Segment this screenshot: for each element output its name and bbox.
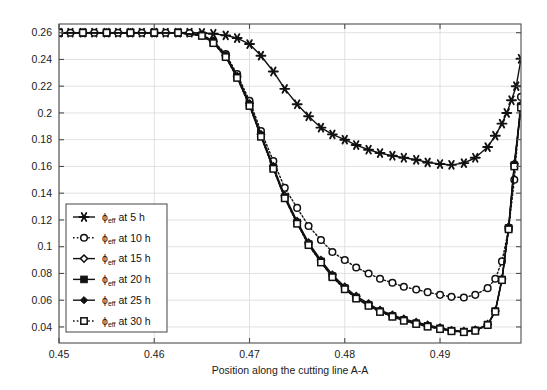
- marker-circle-open: [461, 294, 468, 301]
- marker-star: [412, 156, 421, 164]
- ytick-label: 0.06: [32, 294, 53, 306]
- figure-container: 0.040.060.080.10.120.140.160.180.20.220.…: [0, 0, 547, 390]
- marker-square-open: [270, 166, 276, 172]
- marker-square-open: [223, 54, 229, 60]
- marker-square-open: [448, 328, 454, 334]
- marker-circle-open: [377, 275, 384, 282]
- ytick-label: 0.26: [32, 26, 53, 38]
- xtick-label: 0.45: [49, 348, 70, 360]
- marker-square-filled: [81, 276, 88, 283]
- xtick-label: 0.49: [430, 348, 451, 360]
- marker-circle-open: [472, 292, 479, 299]
- ytick-label: 0.1: [37, 240, 52, 252]
- marker-circle-open: [424, 289, 431, 296]
- marker-circle-open: [341, 257, 348, 264]
- xtick-label: 0.48: [335, 348, 356, 360]
- marker-square-open: [103, 29, 109, 35]
- marker-star: [269, 68, 278, 76]
- series-markers: [55, 29, 526, 169]
- marker-square-open: [365, 303, 371, 309]
- marker-circle-open: [413, 286, 420, 293]
- marker-square-open: [282, 195, 288, 201]
- ytick-label: 0.22: [32, 80, 53, 92]
- marker-star: [328, 130, 337, 138]
- marker-square-open: [210, 40, 216, 46]
- ytick-label: 0.14: [32, 187, 53, 199]
- xtick-label: 0.46: [144, 348, 165, 360]
- marker-square-open: [246, 103, 252, 109]
- marker-circle-open: [81, 235, 88, 242]
- ytick-label: 0.18: [32, 133, 53, 145]
- series-1: [55, 29, 526, 169]
- marker-square-open: [413, 321, 419, 327]
- marker-square-open: [499, 277, 505, 283]
- marker-square-open: [505, 226, 511, 232]
- marker-circle-open: [353, 264, 360, 271]
- marker-square-open: [437, 326, 443, 332]
- marker-star: [209, 30, 218, 38]
- marker-square-open: [127, 29, 133, 35]
- marker-star: [352, 141, 361, 149]
- marker-circle-open: [318, 237, 325, 244]
- marker-square-open: [81, 318, 87, 324]
- legend: ϕeff at 5 hϕeff at 10 hϕeff at 15 hϕeff …: [66, 204, 167, 332]
- marker-star: [233, 34, 242, 42]
- x-axis-title: Position along the cutting line A-A: [212, 364, 368, 376]
- marker-star: [447, 161, 456, 169]
- xtick-label: 0.47: [239, 348, 260, 360]
- marker-star: [502, 109, 511, 117]
- marker-circle-open: [437, 292, 444, 299]
- marker-circle-open: [305, 223, 312, 230]
- marker-square-open: [342, 286, 348, 292]
- marker-circle-open: [484, 285, 491, 292]
- ytick-label: 0.04: [32, 321, 53, 333]
- marker-star: [388, 152, 397, 160]
- marker-square-open: [234, 75, 240, 81]
- marker-circle-open: [365, 270, 372, 277]
- marker-square-open: [199, 33, 205, 39]
- marker-square-open: [424, 323, 430, 329]
- marker-star: [507, 96, 516, 104]
- chart-canvas: 0.040.060.080.10.120.140.160.180.20.220.…: [0, 0, 547, 390]
- marker-star: [376, 149, 385, 157]
- marker-square-open: [377, 309, 383, 315]
- marker-circle-open: [329, 249, 336, 256]
- marker-square-open: [401, 318, 407, 324]
- marker-square-open: [318, 259, 324, 265]
- marker-square-open: [258, 134, 264, 140]
- marker-square-open: [294, 220, 300, 226]
- marker-square-open: [175, 29, 181, 35]
- series-line: [59, 33, 521, 165]
- marker-square-open: [472, 328, 478, 334]
- ytick-label: 0.12: [32, 214, 53, 226]
- marker-square-open: [80, 29, 86, 35]
- ytick-label: 0.08: [32, 267, 53, 279]
- marker-square-open: [484, 322, 490, 328]
- marker-circle-open: [294, 205, 301, 212]
- marker-square-open: [151, 29, 157, 35]
- marker-square-open: [389, 314, 395, 320]
- marker-circle-open: [389, 280, 396, 287]
- marker-square-open: [305, 242, 311, 248]
- legend-box: [66, 204, 167, 332]
- marker-circle-open: [401, 284, 408, 291]
- marker-square-open: [353, 295, 359, 301]
- marker-square-open: [329, 274, 335, 280]
- marker-star: [497, 120, 506, 128]
- marker-square-open: [461, 329, 467, 335]
- ytick-label: 0.24: [32, 53, 53, 65]
- marker-circle-open: [448, 294, 455, 301]
- marker-star: [364, 146, 373, 154]
- marker-star: [399, 154, 408, 162]
- marker-star: [491, 132, 500, 140]
- marker-star: [423, 159, 432, 167]
- ytick-label: 0.2: [37, 107, 52, 119]
- marker-square-open: [492, 309, 498, 315]
- ytick-label: 0.16: [32, 160, 53, 172]
- marker-star: [459, 159, 468, 167]
